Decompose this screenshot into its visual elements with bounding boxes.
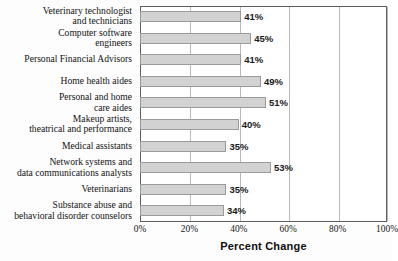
bar[interactable] (140, 33, 251, 44)
bar[interactable] (140, 162, 271, 173)
bar-row: 40% (140, 114, 387, 136)
bar-value-label: 40% (242, 116, 261, 133)
bar-row: 49% (140, 71, 387, 93)
category-label: Computer software engineers (0, 28, 132, 49)
category-label: Veterinarians (0, 184, 132, 194)
bar-row: 35% (140, 136, 387, 158)
bar-value-label: 51% (269, 94, 288, 111)
category-label: Home health aides (0, 76, 132, 86)
bars-layer: 41%45%41%49%51%40%35%53%35%34% (140, 6, 387, 222)
bar-row: 35% (140, 179, 387, 201)
bar[interactable] (140, 141, 226, 152)
bar-value-label: 41% (244, 8, 263, 25)
category-label: Network systems and data communications … (0, 157, 132, 178)
bar-value-label: 34% (227, 202, 246, 219)
bar-row: 53% (140, 157, 387, 179)
x-tick-label: 60% (280, 224, 297, 234)
category-label: Personal Financial Advisors (0, 54, 132, 64)
bar[interactable] (140, 119, 239, 130)
bar-value-label: 45% (254, 30, 273, 47)
bar[interactable] (140, 205, 224, 216)
bar-row: 41% (140, 49, 387, 71)
bar-value-label: 53% (274, 159, 293, 176)
bar[interactable] (140, 11, 241, 22)
bar-value-label: 35% (229, 138, 248, 155)
x-axis-tick-labels: 0%20%40%60%80%100% (140, 224, 387, 238)
category-axis-labels: Veterinary technologist and techniciansC… (0, 6, 136, 222)
bar-row: 45% (140, 28, 387, 50)
x-tick-label: 0% (134, 224, 147, 234)
category-label: Personal and home care aides (0, 92, 132, 113)
bar-row: 41% (140, 6, 387, 28)
bar-value-label: 49% (264, 73, 283, 90)
bar-value-label: 35% (229, 181, 248, 198)
gridline (387, 7, 388, 221)
bar-value-label: 41% (244, 51, 263, 68)
x-tick-label: 20% (181, 224, 198, 234)
bar[interactable] (140, 76, 261, 87)
x-tick-label: 100% (376, 224, 398, 234)
category-label: Makeup artists, theatrical and performan… (0, 114, 132, 135)
bar-row: 51% (140, 92, 387, 114)
bar-row: 34% (140, 200, 387, 222)
x-axis-title: Percent Change (140, 240, 387, 252)
category-label: Substance abuse and behavioral disorder … (0, 200, 132, 221)
category-label: Medical assistants (0, 141, 132, 151)
x-tick-label: 40% (230, 224, 247, 234)
bar[interactable] (140, 54, 241, 65)
bar[interactable] (140, 184, 226, 195)
bar[interactable] (140, 97, 266, 108)
category-label: Veterinary technologist and technicians (0, 6, 132, 27)
x-tick-label: 80% (329, 224, 346, 234)
